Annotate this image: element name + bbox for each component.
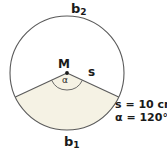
angle-value: α = 120° (115, 112, 167, 123)
arc-length-value: s = 10 cm (115, 99, 167, 110)
angle-label-alpha: α (62, 76, 68, 85)
radius-label-s: s (88, 66, 95, 78)
diagram-canvas (0, 0, 167, 154)
arc-label-b2: b2 (71, 2, 87, 15)
circle-sector-diagram: b2 b1 M s α s = 10 cm α = 120° (0, 0, 167, 154)
center-label-m: M (58, 58, 70, 70)
arc-label-b1: b1 (64, 135, 80, 148)
